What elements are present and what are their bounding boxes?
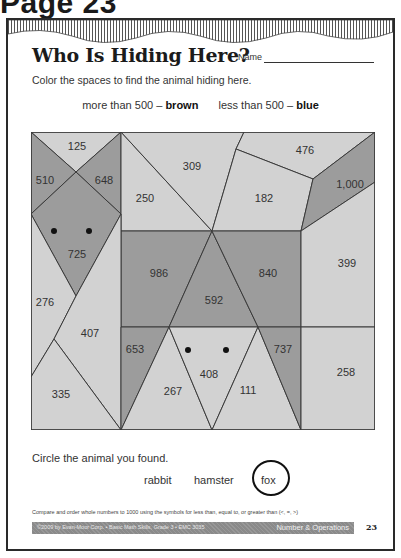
label-250: 250 <box>136 192 154 204</box>
label-592: 592 <box>205 294 223 306</box>
color-legend: more than 500 – brown less than 500 – bl… <box>8 99 393 111</box>
label-840: 840 <box>259 267 277 279</box>
page-heading: Page 23 <box>0 0 117 20</box>
label-476: 476 <box>296 144 314 156</box>
worksheet: Who Is Hiding Here? Name Color the space… <box>6 18 395 551</box>
legend-more-text: more than 500 – <box>82 99 162 111</box>
legend-brown: brown <box>165 99 198 111</box>
name-input-line[interactable] <box>264 62 374 63</box>
label-258: 258 <box>337 366 355 378</box>
region-258[interactable] <box>301 327 375 430</box>
legend-less-text: less than 500 – <box>219 99 294 111</box>
color-by-number-grid: 125 510 648 250 309 476 182 1,000 725 98… <box>31 132 375 430</box>
legend-blue: blue <box>296 99 319 111</box>
label-125: 125 <box>68 140 86 152</box>
label-510: 510 <box>36 174 54 186</box>
label-111: 111 <box>240 384 257 396</box>
instructions: Color the spaces to find the animal hidi… <box>32 74 251 86</box>
footer-copyright: ©2009 by Evan-Moor Corp. • Basic Math Sk… <box>37 524 204 530</box>
choice-rabbit[interactable]: rabbit <box>144 474 172 486</box>
fox-eye-left-icon <box>51 228 57 234</box>
label-653: 653 <box>126 343 144 355</box>
hamster-eye-right-icon <box>223 347 229 353</box>
label-648: 648 <box>95 174 113 186</box>
label-408: 408 <box>200 368 218 380</box>
choice-hamster[interactable]: hamster <box>194 474 234 486</box>
footer-section: Number & Operations <box>276 523 349 532</box>
learning-standard: Compare and order whole numbers to 1000 … <box>32 509 298 515</box>
label-986: 986 <box>150 267 168 279</box>
label-1000: 1,000 <box>336 178 364 190</box>
label-309: 309 <box>183 160 201 172</box>
fox-eye-right-icon <box>86 228 92 234</box>
worksheet-title: Who Is Hiding Here? <box>32 44 250 66</box>
label-399: 399 <box>338 257 356 269</box>
choice-fox[interactable]: fox <box>261 474 276 486</box>
hamster-eye-left-icon <box>185 347 191 353</box>
label-737: 737 <box>274 343 292 355</box>
label-182: 182 <box>255 192 273 204</box>
circle-prompt: Circle the animal you found. <box>32 452 168 464</box>
label-276: 276 <box>36 296 54 308</box>
label-267: 267 <box>164 385 182 397</box>
scalloped-border-decoration <box>8 20 393 46</box>
footer-bar: ©2009 by Evan-Moor Corp. • Basic Math Sk… <box>32 522 354 534</box>
label-335: 335 <box>52 388 70 400</box>
page-number: 23 <box>366 522 377 532</box>
name-label: Name <box>238 52 262 62</box>
label-407: 407 <box>81 327 99 339</box>
label-725: 725 <box>68 248 86 260</box>
